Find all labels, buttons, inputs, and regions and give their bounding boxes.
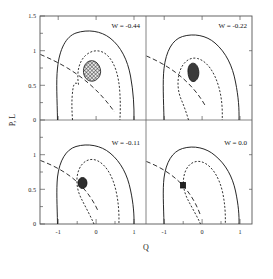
panel-label-bottom-right: W = 0.0 (224, 139, 247, 147)
x-ticklabel: 1 (132, 228, 135, 235)
y-ticklabel: 0.5 (28, 186, 36, 193)
x-ticklabel: 0 (201, 228, 204, 235)
y-ticklabel: 1.5 (28, 12, 36, 19)
y-ticklabel: 0.5 (28, 82, 36, 89)
x-ticklabel: 0 (95, 228, 98, 235)
y-ticklabel: 1 (33, 47, 36, 54)
panel-label-top-right: W = -0.22 (218, 22, 247, 30)
stable-region-blob (78, 178, 87, 189)
panel-label-top-left: W = -0.44 (111, 22, 140, 30)
y-ticklabel: 0 (33, 116, 36, 123)
y-ticklabel: 0 (33, 220, 36, 227)
y-ticklabel: 1 (33, 151, 36, 158)
x-axis-title: Q (143, 243, 149, 252)
panel-label-bottom-left: W = -0.11 (112, 139, 141, 147)
x-ticklabel: -1 (56, 228, 61, 235)
x-ticklabel: 1 (238, 228, 241, 235)
stable-region-blob (188, 63, 199, 81)
y-axis-title: P, L (8, 114, 17, 127)
x-ticklabel: -1 (162, 228, 167, 235)
figure-canvas: 1.5 1 0.5 0 1 0.5 0 -1 0 1 -1 0 1 Q P, L… (0, 0, 273, 279)
stable-region-blob (181, 183, 186, 189)
stable-region-blob (83, 61, 100, 82)
